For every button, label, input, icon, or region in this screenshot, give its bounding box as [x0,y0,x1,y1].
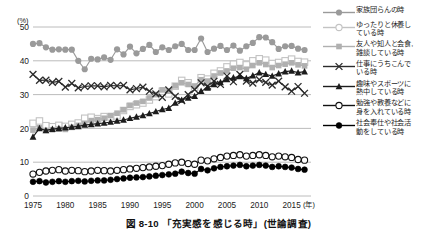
data-point [301,157,307,163]
data-point [49,47,55,53]
data-point [302,167,308,173]
data-point [140,99,146,105]
data-point [43,44,49,50]
data-point [288,67,295,73]
data-point [282,43,288,49]
data-point [237,162,243,168]
data-point [140,46,146,52]
data-point [101,54,107,60]
data-point [37,178,43,184]
data-point [263,62,269,68]
data-point [244,66,250,72]
data-point [30,41,36,47]
data-point [134,175,140,181]
figure-caption: 図 8-10 「充実感を感じる時」(世論調査) [0,216,437,230]
data-point [263,34,269,40]
chart-plot: 0102030405019751980198519901995200020052… [0,0,322,212]
data-point [49,167,55,173]
data-point [276,46,282,52]
data-point [289,60,295,66]
data-point [237,152,243,158]
legend-item-1[interactable]: ゆったりと休養し ている時 [322,21,437,38]
data-point [88,178,94,184]
data-point [263,163,269,169]
data-point [192,171,198,177]
data-point [30,179,36,185]
data-point [160,87,166,93]
data-point [69,47,75,53]
data-point [282,83,289,90]
data-point [82,169,88,175]
data-point [204,49,210,55]
legend-item-5[interactable]: 勉強や教養などに 身を入れている時 [322,99,437,116]
legend-item-2[interactable]: 友人や知人と会食, 雑談している時 [322,40,437,57]
data-point [153,49,159,55]
data-point [140,165,146,171]
data-point [179,80,185,86]
data-point [147,95,153,101]
data-point [146,164,152,170]
y-tick-label: 10 [20,157,30,167]
data-point [224,47,230,53]
data-point [172,43,178,49]
data-point [336,103,342,109]
data-point [75,168,81,174]
data-point [69,167,75,173]
legend-item-4[interactable]: 趣味やスポーツに 熱中している時 [322,80,437,97]
data-point [165,105,172,111]
data-point [82,179,88,185]
data-point [114,110,120,116]
data-point [185,82,191,88]
data-point [198,88,205,94]
legend-marker-open-circle-icon [322,22,356,33]
data-point [282,164,288,170]
data-point [159,162,165,168]
data-point [269,65,275,71]
data-point [288,88,295,95]
data-point [179,159,185,165]
data-point [289,43,295,49]
x-tick-label: 1975 [24,201,43,210]
data-point [101,168,107,174]
data-point [62,47,68,53]
data-point [95,56,101,62]
legend-item-6[interactable]: 社会奉仕や社会活 動をしている時 [322,119,437,136]
data-point [237,65,243,71]
data-point [82,66,88,72]
legend-item-0[interactable]: 家族団らんの時 [322,6,437,18]
legend-item-3[interactable]: 仕事にうちこんで いる時 [322,60,437,77]
data-point [243,43,249,49]
data-point [192,161,198,167]
data-point [107,168,113,174]
y-tick-label: 0 [24,191,29,201]
data-point [218,70,224,76]
data-point [289,154,295,160]
legend-label: 友人や知人と会食, 雑談している時 [356,40,413,57]
data-point [146,88,153,95]
data-point [269,39,275,45]
legend-label: 社会奉仕や社会活 動をしている時 [356,119,411,136]
data-point [166,161,172,167]
legend-label: 勉強や教養などに 身を入れている時 [356,99,411,116]
legend-marker-open-circle-lg-icon [322,100,356,111]
y-tick-label: 40 [20,56,30,66]
data-point [185,47,191,53]
data-point [56,178,62,184]
data-point [43,168,49,174]
data-point [231,163,237,169]
data-point [205,167,211,173]
data-point [243,153,249,159]
data-point [121,107,127,113]
data-point [127,175,133,181]
legend-label: ゆったりと休養し ている時 [356,21,411,38]
data-point [133,165,139,171]
data-point [30,120,36,126]
data-point [295,156,301,162]
legend-label: 家族団らんの時 [356,6,404,15]
data-point [146,173,152,179]
x-axis-unit-label: (年) [303,198,315,209]
x-tick-label: 1985 [89,201,108,210]
data-point [224,68,230,74]
data-point [146,42,152,48]
data-point [250,152,256,158]
